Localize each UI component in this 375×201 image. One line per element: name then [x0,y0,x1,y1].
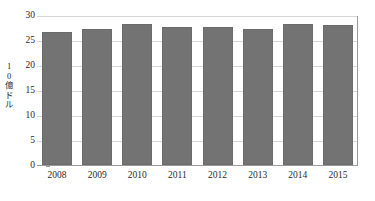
plot-right-border [357,16,358,166]
x-tick-label: 2008 [37,170,77,181]
y-tick-label: 30 [15,11,35,21]
bar [122,24,152,165]
bar [203,27,233,165]
bar-chart: 10億ドル 051015202530 200820092010201120122… [0,0,375,201]
bar [42,32,72,165]
y-tick-label: 5 [15,136,35,146]
bar [82,29,112,165]
x-axis-labels: 20082009201020112012201320142015 [37,170,358,186]
x-tick-label: 2009 [77,170,117,181]
y-tick-label: 15 [15,86,35,96]
bar [243,29,273,165]
bar [323,25,353,166]
y-tick-label: 20 [15,61,35,71]
gridline [37,16,358,17]
y-tick-label: 0 [15,161,35,171]
x-tick-label: 2010 [117,170,157,181]
y-tick-mark [46,166,50,167]
x-axis-line [37,165,358,166]
y-tick-label: 10 [15,111,35,121]
x-tick-label: 2012 [198,170,238,181]
x-tick-label: 2013 [238,170,278,181]
bar [283,24,313,165]
plot-area [37,16,358,166]
y-tick-label: 25 [15,36,35,46]
bar [162,27,192,165]
x-tick-label: 2015 [318,170,358,181]
x-tick-label: 2014 [278,170,318,181]
y-axis-ticks: 051015202530 [13,16,35,166]
x-tick-label: 2011 [157,170,197,181]
